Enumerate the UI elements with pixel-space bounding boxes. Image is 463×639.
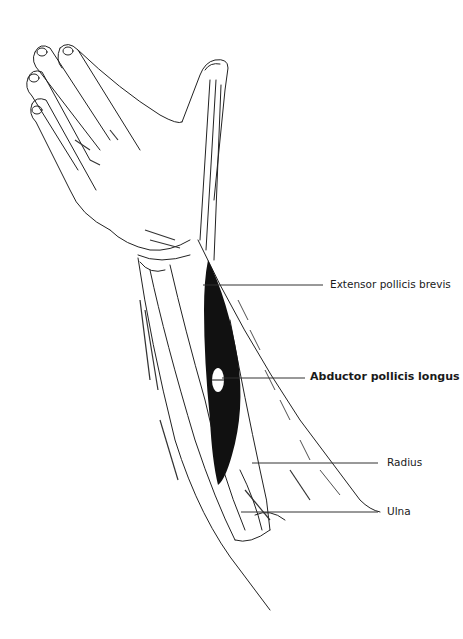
label-abductor-pollicis-longus: Abductor pollicis longus: [310, 370, 460, 383]
label-ulna: Ulna: [387, 505, 411, 517]
leader-lines: [0, 0, 463, 639]
anatomy-illustration: Extensor pollicis brevis Abductor pollic…: [0, 0, 463, 639]
label-radius: Radius: [387, 456, 422, 468]
label-extensor-pollicis-brevis: Extensor pollicis brevis: [330, 278, 451, 290]
